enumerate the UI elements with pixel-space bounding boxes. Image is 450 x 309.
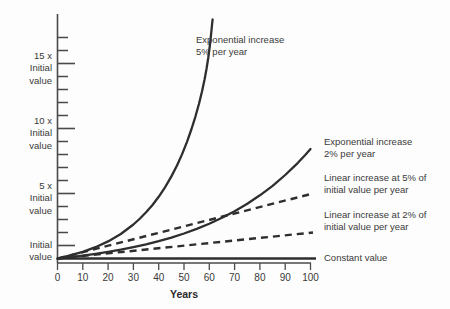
annotation-constant-value: Constant value [324, 252, 387, 264]
x-axis-title: Years [144, 288, 224, 300]
x-tick-label-30: 30 [120, 272, 146, 283]
x-tick-label-70: 70 [222, 272, 248, 283]
x-tick-label-10: 10 [70, 272, 96, 283]
y-label-initial-value: Initial value [8, 239, 52, 264]
x-tick-label-50: 50 [171, 272, 197, 283]
annotation-exponential-5-percent: Exponential increase 5% per year [196, 34, 284, 58]
x-ticks [58, 263, 311, 270]
x-tick-label-0: 0 [45, 272, 71, 283]
annotation-linear-2-percent: Linear increase at 2% of initial value p… [324, 209, 426, 233]
chart-figure: 15 x Initial value 10 x Initial value 5 … [0, 0, 450, 309]
y-label-15x: 15 x Initial value [8, 50, 52, 87]
x-tick-label-20: 20 [95, 272, 121, 283]
x-tick-label-90: 90 [272, 272, 298, 283]
annotation-exponential-2-percent: Exponential increase 2% per year [324, 136, 412, 160]
x-tick-label-80: 80 [247, 272, 273, 283]
x-tick-label-60: 60 [196, 272, 222, 283]
x-tick-label-100: 100 [298, 272, 324, 283]
y-label-5x: 5 x Initial value [8, 180, 52, 217]
annotation-linear-5-percent: Linear increase at 5% of initial value p… [324, 172, 426, 196]
y-minor-ticks [58, 38, 69, 233]
x-tick-label-40: 40 [146, 272, 172, 283]
series-linear-5-percent [58, 194, 313, 259]
y-label-10x: 10 x Initial value [8, 115, 52, 152]
series-exponential-5-percent [58, 20, 213, 259]
